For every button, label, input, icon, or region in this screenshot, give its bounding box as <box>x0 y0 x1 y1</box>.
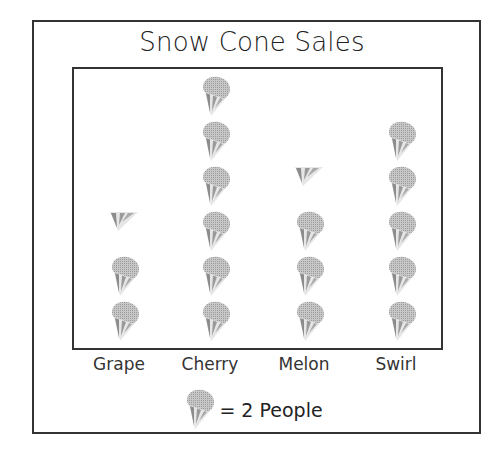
column-melon <box>289 165 329 344</box>
snow-cone-icon <box>291 210 327 254</box>
column-swirl <box>381 119 421 344</box>
snow-cone-icon <box>197 300 233 344</box>
half-snow-cone-icon <box>106 210 142 232</box>
category-label-cherry: Cherry <box>165 354 255 374</box>
snow-cone-icon <box>383 255 419 299</box>
category-label-swirl: Swirl <box>351 354 441 374</box>
snow-cone-icon <box>383 120 419 164</box>
half-snow-cone-icon <box>291 165 327 187</box>
snow-cone-icon <box>106 255 142 299</box>
legend-text: = 2 People <box>219 399 322 421</box>
column-cherry <box>195 74 235 344</box>
snow-cone-icon <box>181 388 217 432</box>
snow-cone-icon <box>383 300 419 344</box>
snow-cone-icon <box>383 210 419 254</box>
snow-cone-icon <box>383 165 419 209</box>
legend-key: = 2 People <box>0 388 504 432</box>
plot-area <box>72 67 443 350</box>
snow-cone-icon <box>197 210 233 254</box>
category-label-grape: Grape <box>74 354 164 374</box>
category-label-melon: Melon <box>259 354 349 374</box>
snow-cone-icon <box>197 165 233 209</box>
column-grape <box>104 210 144 344</box>
snow-cone-icon <box>197 75 233 119</box>
snow-cone-icon <box>106 300 142 344</box>
snow-cone-icon <box>197 255 233 299</box>
snow-cone-icon <box>291 300 327 344</box>
snow-cone-icon <box>197 120 233 164</box>
chart-title: Snow Cone Sales <box>0 27 504 57</box>
snow-cone-icon <box>291 255 327 299</box>
